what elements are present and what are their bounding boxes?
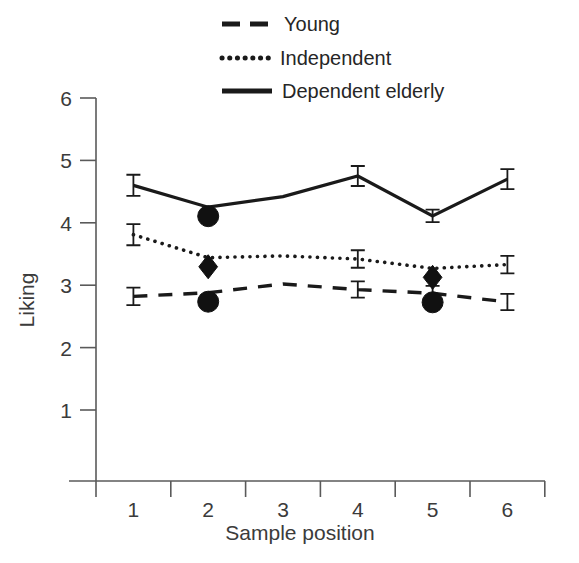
legend-label-dependent-elderly: Dependent elderly (282, 80, 444, 102)
x-tick-label-4: 4 (352, 498, 364, 521)
legend-label-young: Young (284, 13, 340, 35)
data-point-circle (422, 292, 443, 313)
y-tick-label-2: 2 (60, 337, 72, 360)
x-tick-label-1: 1 (128, 498, 140, 521)
y-axis: 123456 Liking (15, 87, 96, 481)
y-axis-title: Liking (15, 273, 38, 328)
y-tick-label-6: 6 (60, 87, 72, 110)
legend: Young Independent Dependent elderly (222, 13, 444, 102)
y-tick-label-5: 5 (60, 149, 72, 172)
series-independent (126, 224, 514, 289)
series-line-solid (133, 176, 507, 216)
liking-line-chart: Young Independent Dependent elderly 1234… (0, 0, 579, 563)
y-tick-label-4: 4 (60, 212, 72, 235)
y-tick-group: 123456 (60, 87, 96, 422)
x-tick-label-5: 5 (427, 498, 439, 521)
y-tick-label-1: 1 (60, 399, 72, 422)
series-layer (126, 166, 514, 313)
x-tick-label-3: 3 (277, 498, 289, 521)
x-axis: 123456 Sample position (69, 481, 545, 544)
data-point-circle (198, 291, 219, 312)
legend-item-independent: Independent (222, 47, 392, 69)
error-bar (500, 294, 514, 310)
y-tick-label-3: 3 (60, 274, 72, 297)
series-dependent-elderly (126, 166, 514, 227)
data-point-diamond (199, 255, 218, 279)
chart-container: Young Independent Dependent elderly 1234… (0, 0, 579, 563)
error-bar (126, 224, 140, 245)
x-axis-title: Sample position (225, 521, 374, 544)
legend-label-independent: Independent (280, 47, 392, 69)
legend-item-dependent-elderly: Dependent elderly (222, 80, 444, 102)
x-tick-group: 123456 (96, 481, 545, 521)
legend-item-young: Young (222, 13, 340, 35)
series-young (126, 281, 514, 312)
error-bar (500, 169, 514, 189)
series-line-dashed (133, 284, 507, 302)
x-tick-label-6: 6 (502, 498, 514, 521)
data-point-circle (198, 206, 219, 227)
x-tick-label-2: 2 (202, 498, 214, 521)
series-line-dotted (133, 235, 507, 269)
